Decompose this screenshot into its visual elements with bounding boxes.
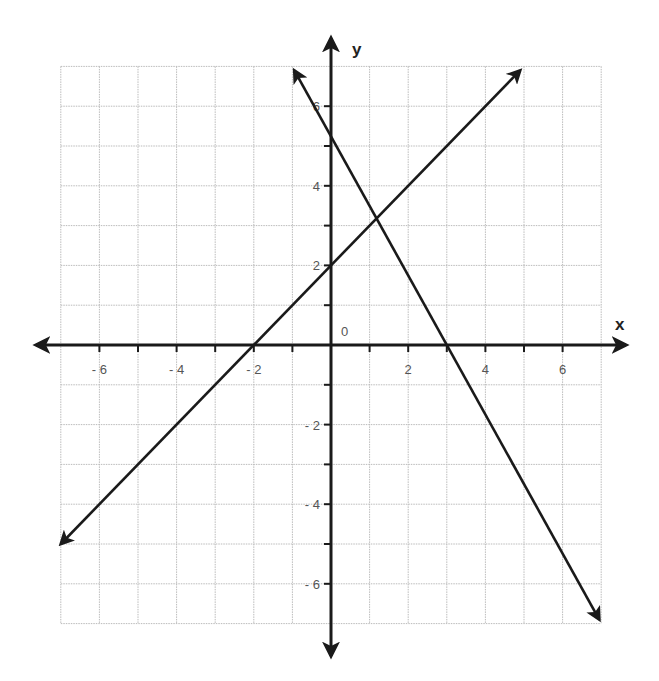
origin-label: 0 [341, 324, 348, 339]
x-tick-label: 6 [559, 362, 566, 377]
y-tick-label: - 6 [305, 577, 320, 592]
y-tick-label: - 4 [305, 497, 320, 512]
y-tick-label: 2 [313, 258, 320, 273]
coordinate-plane: - 6- 4- 2246- 6- 4- 2246 x y 0 [0, 0, 659, 681]
y-axis-label: y [352, 40, 362, 59]
x-tick-label: - 2 [246, 362, 261, 377]
y-tick-label: - 2 [305, 418, 320, 433]
y-tick-label: 4 [313, 179, 320, 194]
x-tick-label: - 4 [169, 362, 184, 377]
x-tick-label: 2 [405, 362, 412, 377]
axes [36, 38, 626, 656]
x-tick-label: 4 [482, 362, 489, 377]
x-axis-label: x [615, 315, 625, 334]
line-1 [61, 70, 520, 544]
x-tick-label: - 6 [92, 362, 107, 377]
